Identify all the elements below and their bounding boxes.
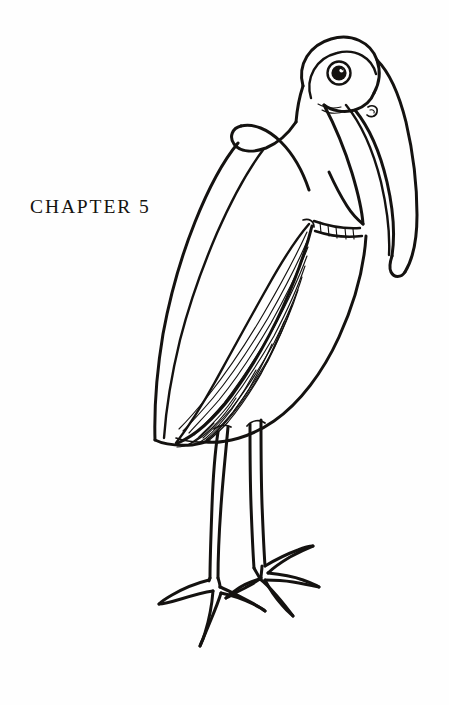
wing-group — [176, 219, 314, 447]
beak-tip — [390, 256, 405, 277]
back-outline — [155, 143, 238, 440]
eye-group — [328, 62, 351, 85]
collar-band-bottom — [315, 231, 362, 237]
left-foot-ankle-b — [209, 578, 210, 581]
nostril-icon — [367, 106, 377, 117]
nostril-inner — [370, 110, 374, 113]
left-leg-back-edge — [218, 427, 228, 578]
right-foot — [226, 546, 319, 616]
right-foot-ankle-b — [254, 568, 260, 579]
left-foot-ankle — [218, 578, 220, 587]
neck-group — [232, 122, 363, 239]
beak-group — [324, 60, 417, 277]
page-canvas: CHAPTER 5 — [0, 0, 449, 705]
left-leg-front-edge — [210, 432, 218, 578]
right-foot-ankle — [261, 566, 262, 578]
left-foot — [159, 578, 265, 646]
bird-illustration — [0, 0, 449, 705]
face-detail-1 — [318, 104, 341, 108]
right-leg-front-edge — [250, 424, 254, 568]
beak-lower-edge — [355, 110, 393, 256]
body-group — [155, 143, 366, 445]
feet-group — [159, 546, 319, 646]
right-leg-back-edge — [261, 420, 265, 566]
eye-pupil — [331, 65, 346, 80]
neck-shoulder-hook — [241, 125, 309, 190]
nape-line — [296, 86, 303, 122]
legs-group — [210, 420, 265, 578]
right-foot-toe-left-b — [226, 578, 261, 598]
nostril-group — [367, 106, 377, 117]
